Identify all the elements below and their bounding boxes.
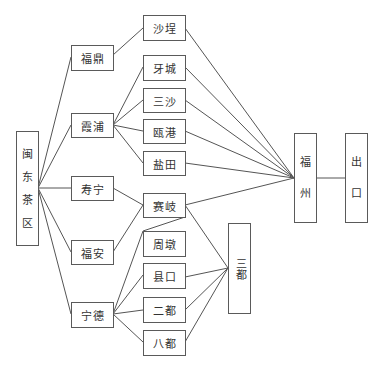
edge-shacheng-fuzhou [185,28,294,178]
node-mindong-tea-region: 闽 东 茶 区 [16,131,39,246]
node-sandu: 三都 [228,223,251,314]
node-saiqi: 赛岐 [143,193,186,218]
node-badu: 八都 [143,330,186,356]
node-xiapu: 霞浦 [71,113,114,138]
node-zhoudun: 周墩 [143,231,186,257]
edge-ningde-badu [113,314,143,342]
node-char: 东 [22,172,34,183]
node-fuzhou: 福 州 [294,133,317,223]
edge-ningde-xiankou [113,275,143,314]
edge-badu-sandu [185,268,228,342]
node-ougang: 瓯港 [143,119,186,144]
node-label: 宁德 [81,307,105,323]
edge-fuding-shacheng [113,28,143,55]
node-label: 县口 [153,268,177,284]
edge-mindong-ningde [38,188,71,314]
node-fuan: 福安 [71,240,114,265]
edge-sansha-fuzhou [185,100,294,178]
edge-mindong-xiapu [38,125,71,188]
node-export: 出 口 [345,133,368,223]
node-label: 赛岐 [153,198,177,214]
node-char: 福 [300,157,312,168]
node-label: 二都 [153,302,177,318]
node-char: 区 [22,218,34,229]
node-label: 福安 [81,245,105,261]
node-erdu: 二都 [143,297,186,323]
node-label: 瓯港 [153,124,177,140]
node-label: 三沙 [153,93,177,109]
node-shacheng: 沙埕 [143,15,186,41]
node-char: 闽 [22,149,34,160]
node-char: 茶 [22,195,34,206]
node-label: 牙城 [153,60,177,76]
edge-fuan-saiqi [113,205,143,252]
edge-mindong-fuding [38,57,71,188]
edge-xiapu-yantian [113,125,143,163]
edge-ningde-saiqi [143,217,185,231]
node-label: 八都 [153,335,177,351]
node-label: 周墩 [153,236,177,252]
node-yacheng: 牙城 [143,55,186,81]
connector-lines [0,0,380,372]
edge-mindong-fuan [38,188,71,252]
node-ningde: 宁德 [71,302,114,328]
edge-ningde-erdu [113,310,143,314]
node-xiankou: 县口 [143,263,186,289]
node-char: 州 [300,188,312,199]
edge-xiapu-sansha [113,100,143,125]
node-label: 三都 [232,258,248,280]
tea-export-flow-diagram: 闽 东 茶 区 福鼎 霞浦 寿宁 福安 宁德 沙埕 牙城 三沙 瓯港 盐田 赛岐… [0,0,380,372]
node-yantian: 盐田 [143,151,186,176]
node-label: 沙埕 [153,20,177,36]
node-char: 口 [351,188,363,199]
edge-erdu-sandu [185,268,228,310]
edge-yacheng-fuzhou [185,67,294,178]
edge-xiapu-yacheng [113,67,143,125]
edge-xiankou-sandu [185,268,228,277]
node-char: 出 [351,157,363,168]
node-label: 霞浦 [81,118,105,134]
node-label: 寿宁 [81,181,105,197]
edge-shouning-saiqi [113,188,143,205]
node-label: 福鼎 [81,50,105,66]
edge-saiqi-sandu [185,205,228,268]
edge-saiqi-fuzhou [185,178,294,205]
node-shouning: 寿宁 [71,176,114,201]
node-sansha: 三沙 [143,88,186,113]
edge-ningde-zhoudun [113,231,143,314]
node-label: 盐田 [153,156,177,172]
node-fuding: 福鼎 [71,45,114,71]
